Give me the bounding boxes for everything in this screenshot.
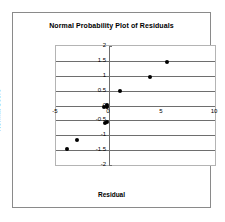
x-tick-label: 0	[98, 108, 118, 114]
data-point	[165, 60, 169, 64]
y-tick-mark	[109, 120, 112, 121]
data-point	[65, 147, 69, 151]
x-tick-label: -5	[45, 108, 65, 114]
y-axis-title: Normal Score	[0, 89, 1, 131]
y-tick-mark	[109, 61, 112, 62]
y-tick-label: -2	[84, 161, 106, 167]
y-tick-label: -1.5	[84, 146, 106, 152]
data-point	[148, 75, 152, 79]
plot-area	[55, 45, 216, 166]
y-tick-label: 1	[84, 72, 106, 78]
y-tick-label: 1.5	[84, 57, 106, 63]
y-tick-label: 2	[84, 42, 106, 48]
gridline	[56, 61, 215, 62]
y-tick-mark	[109, 150, 112, 151]
y-tick-label: -0.5	[84, 116, 106, 122]
x-tick-label: 10	[204, 108, 224, 114]
data-point	[75, 138, 79, 142]
y-tick-mark	[109, 91, 112, 92]
chart-title: Normal Probability Plot of Residuals	[13, 21, 210, 30]
y-tick-mark	[109, 76, 112, 77]
x-tick-label: 5	[151, 108, 171, 114]
gridline	[56, 91, 215, 92]
y-tick-mark	[109, 46, 112, 47]
gridline	[56, 120, 215, 121]
y-tick-mark	[109, 135, 112, 136]
x-axis-title: Residual	[13, 191, 210, 199]
data-point	[118, 89, 122, 93]
chart-frame: Normal Probability Plot of Residuals Nor…	[12, 12, 211, 208]
gridline	[56, 150, 215, 151]
gridline	[56, 76, 215, 77]
y-tick-label: -1	[84, 131, 106, 137]
y-tick-mark	[109, 165, 112, 166]
gridline	[56, 106, 215, 107]
y-tick-label: 0.5	[84, 87, 106, 93]
gridline	[56, 135, 215, 136]
